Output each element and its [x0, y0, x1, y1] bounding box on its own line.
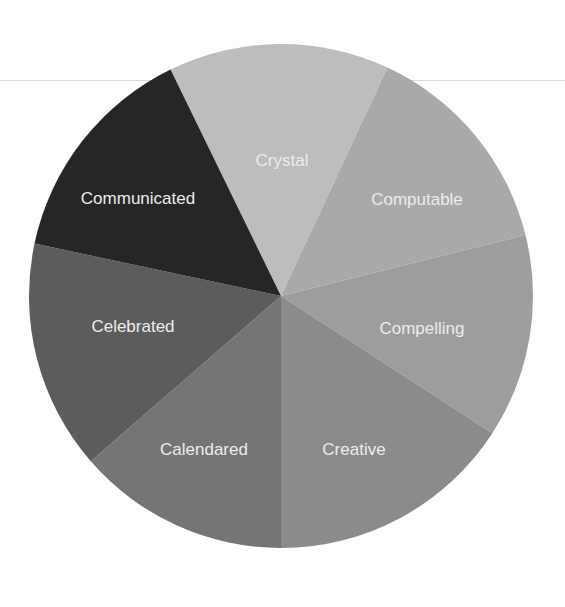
- pie-chart: CrystalComputableCompellingCreativeCalen…: [0, 0, 565, 607]
- slice-label-calendared: Calendared: [160, 440, 248, 459]
- slice-label-compelling: Compelling: [379, 319, 464, 338]
- slice-label-communicated: Communicated: [81, 189, 195, 208]
- slice-label-celebrated: Celebrated: [91, 317, 174, 336]
- slice-label-crystal: Crystal: [256, 151, 309, 170]
- slice-label-computable: Computable: [371, 190, 463, 209]
- slice-label-creative: Creative: [322, 440, 385, 459]
- pie-slices: [29, 44, 533, 548]
